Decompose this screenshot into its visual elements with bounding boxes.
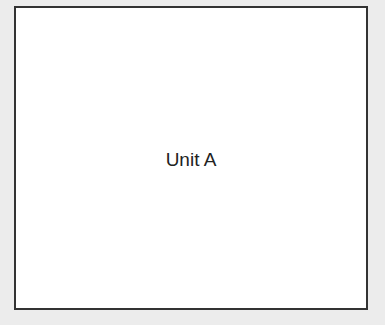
unit-label: Unit A — [166, 149, 217, 171]
unit-a-box: Unit A — [14, 6, 368, 310]
